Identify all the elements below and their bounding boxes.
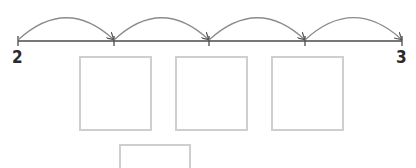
answer-box-1[interactable] (79, 56, 152, 131)
jump-arc-1 (18, 18, 113, 40)
answer-box-3[interactable] (271, 56, 344, 131)
answer-box-2[interactable] (175, 56, 248, 131)
jump-arc-4 (305, 18, 401, 40)
start-label: 2 (12, 47, 23, 67)
answer-box-4[interactable] (119, 144, 191, 168)
jump-arc-2 (114, 18, 208, 40)
end-label: 3 (396, 47, 407, 67)
jump-arc-3 (209, 18, 304, 40)
